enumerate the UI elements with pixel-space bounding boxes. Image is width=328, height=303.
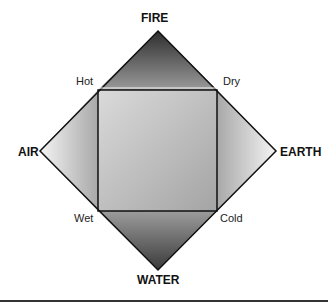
fire-triangle [98,31,217,90]
label-water: WATER [137,274,179,286]
earth-triangle [217,90,276,211]
label-hot: Hot [76,76,93,87]
bottom-rule [0,300,328,302]
label-earth: EARTH [280,146,321,158]
label-air: AIR [18,146,39,158]
four-elements-diagram [0,0,328,303]
center-square [98,90,217,211]
label-dry: Dry [223,76,240,87]
air-triangle [40,90,98,211]
label-fire: FIRE [141,12,168,24]
label-cold: Cold [220,213,243,224]
label-wet: Wet [74,213,93,224]
water-triangle [98,211,217,270]
